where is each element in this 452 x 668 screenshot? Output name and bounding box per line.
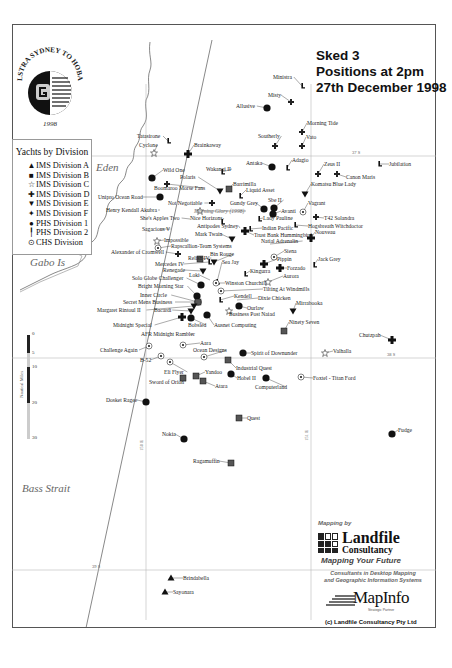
leader-line — [239, 226, 240, 228]
yacht-label: Midnight Special — [113, 322, 152, 328]
yacht-label: Mark Twain — [195, 231, 222, 237]
yacht-marker-circled-dot-icon — [158, 353, 164, 359]
leader-line — [199, 275, 210, 280]
yacht-marker-flag-icon — [294, 222, 298, 228]
yacht-label: Zeus II — [324, 161, 340, 167]
partner-label: Strategic Partner — [368, 608, 433, 612]
leader-line — [221, 289, 263, 291]
mapinfo-logo: MapInfo Strategic Partner — [313, 588, 433, 612]
yacht-label: Siena — [284, 248, 296, 254]
yacht-label: Bin Rouge — [210, 251, 234, 257]
legend-item-square: ■IMS Division B — [27, 171, 91, 181]
yacht-label: Ausnet Computing — [214, 322, 256, 328]
division-legend: Yachts by Division ▲IMS Division A■IMS D… — [12, 139, 92, 255]
yacht-label: Renegade — [163, 267, 185, 273]
yacht-label: Winston Churchill — [225, 280, 266, 286]
landfile-logo: Landfile Consultancy — [318, 531, 433, 555]
yacht-label: Kingurra — [250, 268, 270, 274]
yacht-label: Tilting At Windmills — [263, 286, 309, 292]
yacht-marker-cross-icon — [184, 150, 192, 158]
legend-label: IMS Division D — [36, 190, 89, 199]
legend-item-triangle: ▲IMS Division A — [27, 161, 91, 171]
yacht-label: Boomaroo Morse Fans — [154, 185, 205, 191]
yacht-label: Industrial Quest — [236, 365, 272, 371]
yacht-label: Relish IV — [188, 255, 210, 261]
svg-text:1998: 1998 — [43, 120, 58, 128]
yacht-marker-square-icon — [193, 373, 199, 379]
leader-line — [155, 317, 182, 325]
nautical-miles-scale: 0 5 10 20 30 Nautical Miles — [27, 335, 33, 440]
yacht-marker-square-icon — [236, 415, 242, 421]
star-outline-icon: ☆ — [27, 180, 36, 190]
square-icon: ■ — [27, 171, 36, 181]
yacht-label: Vagrant — [308, 200, 325, 206]
yacht-marker-circle-icon — [270, 204, 277, 211]
yacht-marker-square-icon — [228, 460, 234, 466]
map-title: Sked 3 Positions at 2pm 27th December 19… — [316, 48, 447, 96]
legend-item-cross: ✚IMS Division D — [27, 190, 91, 200]
yacht-marker-down-triangle-icon — [188, 309, 195, 315]
mapping-by-label: Mapping by — [318, 520, 433, 526]
legend-title: Yachts by Division — [13, 147, 91, 157]
legend-list: ▲IMS Division A■IMS Division B☆IMS Divis… — [27, 161, 91, 247]
yacht-marker-square-icon — [225, 357, 231, 363]
legend-item-small-cross: ✦IMS Division F — [27, 209, 91, 219]
legend-label: PHS Division 1 — [36, 219, 88, 228]
credits-block: Mapping by Landfile Consultancy Mapping … — [313, 520, 433, 625]
leader-line — [220, 296, 234, 300]
yacht-marker-cross-icon — [260, 260, 268, 268]
legend-item-flag: ╿PHS Division 2 — [27, 228, 91, 238]
yacht-marker-small-cross-icon — [334, 171, 340, 177]
yacht-marker-small-cross-icon — [299, 129, 305, 135]
yacht-label: Morning Glory (1998) — [194, 208, 244, 214]
yacht-label: She's Apples Two — [140, 215, 180, 221]
legend-item-circled-dot: ⊙CHS Division — [27, 238, 91, 248]
yacht-label: Pippin — [277, 256, 292, 262]
yacht-marker-square-icon — [200, 378, 206, 384]
yacht-marker-small-cross-icon — [175, 251, 181, 257]
yacht-marker-small-cross-icon — [209, 200, 215, 206]
triangle-icon: ▲ — [27, 161, 36, 171]
yacht-label: Bacardi — [154, 307, 171, 313]
yacht-label: T42 Solandra — [324, 215, 354, 221]
yacht-marker-circle-icon — [156, 193, 163, 200]
yacht-label: Jubilation — [389, 161, 411, 167]
yacht-label: Morning Tide — [307, 120, 338, 126]
yacht-marker-cross-icon — [276, 264, 284, 272]
yacht-marker-down-triangle-icon — [302, 192, 309, 198]
yacht-marker-down-triangle-icon — [290, 309, 297, 315]
yacht-label: Solo Globe Challenger — [132, 275, 183, 281]
legend-label: IMS Division C — [36, 180, 89, 189]
yacht-label: Ragamuffin — [193, 458, 220, 464]
yacht-label: Kendell — [234, 293, 252, 299]
leader-line — [163, 136, 168, 141]
yacht-label: Not Negotiable — [168, 200, 202, 206]
yacht-marker-circle-icon — [235, 302, 242, 309]
scale-title: Nautical Miles — [19, 371, 24, 398]
yacht-label: Dixie Chicken — [258, 295, 290, 301]
yacht-marker-circled-dot-icon — [201, 354, 207, 360]
yacht-marker-circle-icon — [197, 281, 204, 288]
flag-icon: ╿ — [27, 228, 36, 238]
yacht-label: Antaka — [246, 160, 262, 166]
yacht-label: Aurora — [283, 273, 299, 279]
scale-tick: 0 — [32, 331, 35, 336]
yacht-label: Misty — [268, 92, 281, 98]
yacht-marker-flag-icon — [301, 83, 305, 89]
yacht-marker-circle-icon — [227, 370, 234, 377]
title-sked: Sked 3 — [316, 48, 447, 64]
yacht-label: Wild One — [163, 167, 185, 173]
yacht-marker-circle-icon — [148, 174, 155, 181]
yacht-marker-star-outline-icon — [151, 150, 158, 157]
yacht-marker-circled-dot-icon — [167, 359, 173, 365]
longitude-label: 151 E — [304, 430, 309, 441]
yacht-marker-circled-dot-icon — [298, 374, 304, 380]
yacht-label: Mirrabooka — [296, 300, 322, 306]
yacht-label: Cyclone — [139, 142, 158, 148]
yacht-label: Bobsled — [188, 322, 206, 328]
yacht-label: Tatasirone — [137, 133, 160, 139]
yacht-label: AFR Midnight Rambler — [141, 331, 195, 337]
yacht-marker-small-cross-icon — [315, 171, 321, 177]
latitude-label: 38 S — [387, 352, 395, 357]
yacht-label: Brainkaway — [194, 142, 221, 148]
